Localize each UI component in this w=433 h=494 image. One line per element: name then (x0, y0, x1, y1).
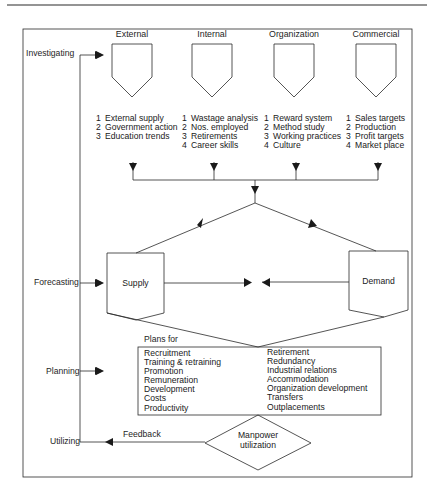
list-item: 4Career skills (182, 141, 258, 150)
internal-pentagon (192, 44, 232, 97)
stage-investigating: Investigating (26, 49, 74, 58)
arrow-feedback (105, 438, 113, 446)
organization-list: 1Reward system 2Method study 3Working pr… (264, 114, 341, 150)
list-item: 3Education trends (96, 132, 178, 141)
stage-forecasting: Forecasting (34, 278, 79, 287)
internal-list: 1Wastage analysis 2Nos. employed 3Retire… (182, 114, 258, 150)
commercial-list: 1Sales targets 2Production 3Profit targe… (346, 114, 405, 150)
commercial-pentagon (356, 44, 396, 97)
supply-label: Supply (107, 278, 164, 288)
heading-external: External (92, 30, 172, 39)
plans-right-column: Retirement Redundancy Industrial relatio… (267, 348, 367, 412)
demand-label: Demand (349, 276, 408, 286)
list-item: 4Culture (264, 141, 341, 150)
plans-title: Plans for (144, 335, 178, 344)
organization-pentagon (274, 44, 314, 97)
diagram-lines (0, 0, 433, 494)
arrow-planning (96, 367, 104, 375)
heading-organization: Organization (254, 30, 334, 39)
plans-left-column: Recruitment Training & retraining Promot… (144, 349, 221, 413)
external-pentagon (112, 44, 152, 97)
arrow-investigating (96, 51, 104, 59)
external-list: 1External supply 2Government action 3Edu… (96, 114, 178, 141)
feedback-label: Feedback (123, 430, 161, 439)
plan-item: Productivity (144, 404, 221, 413)
heading-commercial: Commercial (336, 30, 416, 39)
plan-item: Outplacements (267, 403, 367, 412)
manpower-utilization-label: Manpower utilization (225, 430, 291, 450)
heading-internal: Internal (172, 30, 252, 39)
arrow-forecasting (96, 279, 104, 287)
stage-planning: Planning (46, 367, 79, 376)
list-item: 4Market place (346, 141, 405, 150)
stage-utilizing: Utilizing (50, 437, 80, 446)
